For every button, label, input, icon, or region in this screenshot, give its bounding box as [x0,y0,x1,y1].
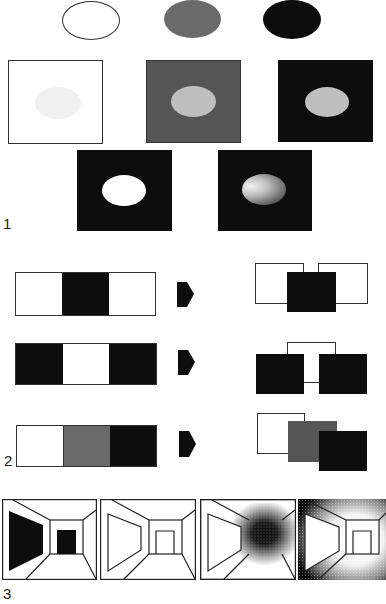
corridor-panel-outline [100,499,196,580]
light-ellipse [305,87,349,117]
figure-3-label: 3 [3,586,11,601]
strip-cell-black [109,344,156,384]
white-ellipse [102,175,146,206]
result-black-square-left [256,354,304,394]
shaded-ellipse [242,174,286,205]
strip-white-black-white [15,272,156,316]
outline-ellipse [62,1,120,40]
result-black-square-front [287,272,336,312]
right-arrow-icon [178,348,195,377]
result-black-square-front [319,431,367,471]
black-square [218,150,312,231]
black-square [278,60,373,142]
corridor-panel-dark-edges [298,499,386,580]
right-arrow-icon [179,429,196,459]
strip-cell-black [62,273,108,315]
strip-cell-white [17,426,64,466]
figure-1-label: 1 [3,216,11,231]
figure-2-label: 2 [4,453,12,468]
gray-ellipse [164,0,221,38]
strip-black-white-black [15,343,157,385]
light-ellipse [171,86,216,117]
right-arrow-icon [177,280,194,309]
black-square [77,150,172,231]
strip-cell-white [109,273,155,315]
corridor-panel-black-window-door [2,499,97,580]
light-ellipse [35,87,81,119]
corridor-panel-dark-center [200,499,296,580]
strip-cell-black [110,426,156,466]
strip-cell-white [63,344,110,384]
strip-cell-white [16,273,62,315]
white-square [8,60,103,144]
black-ellipse [263,0,321,39]
strip-white-gray-black [16,425,157,467]
strip-cell-gray [64,426,110,466]
strip-cell-black [16,344,63,384]
result-black-square-right [319,354,367,394]
gray-square [146,60,241,143]
